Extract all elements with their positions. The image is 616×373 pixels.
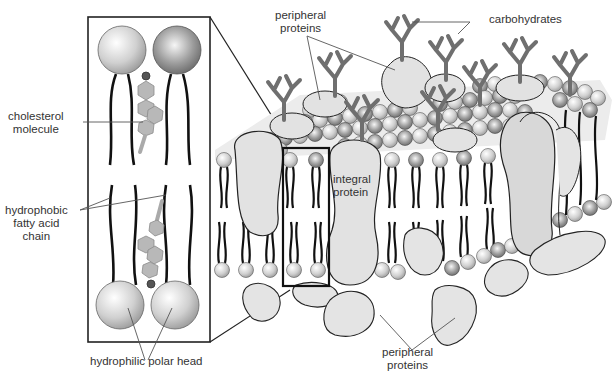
label-cholesterol-molecule: cholesterol molecule — [8, 110, 64, 136]
integral-protein-left — [235, 131, 283, 235]
label-hydrophobic-fatty-acid-chain: hydrophobic fatty acid chain — [5, 204, 68, 243]
label-integral-protein: integral protein — [333, 173, 371, 199]
label-carbohydrates: carbohydrates — [489, 13, 562, 26]
label-hydrophilic-polar-head: hydrophilic polar head — [90, 355, 203, 368]
membrane-bilayer — [215, 16, 613, 345]
label-peripheral-proteins-bottom: peripheral proteins — [382, 346, 433, 372]
membrane-diagram — [0, 0, 616, 373]
inset-box — [88, 17, 210, 342]
integral-protein-center — [327, 140, 381, 285]
label-peripheral-proteins-top: peripheral proteins — [275, 9, 326, 35]
